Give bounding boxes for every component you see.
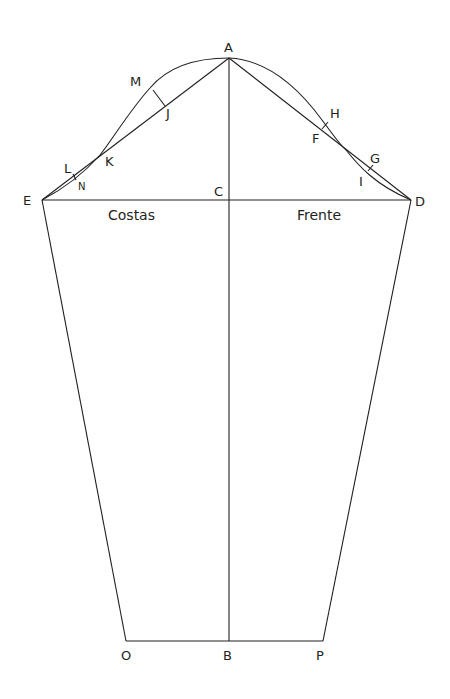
label-point-I: I <box>359 174 363 189</box>
left-side-line-E-O <box>42 200 126 641</box>
label-point-E: E <box>23 193 31 208</box>
label-point-L: L <box>64 161 72 176</box>
label-point-G: G <box>370 151 380 166</box>
label-point-K: K <box>105 154 114 169</box>
tick-M-J <box>153 90 165 106</box>
right-side-line-D-P <box>323 200 411 641</box>
label-point-O: O <box>121 648 131 663</box>
label-point-B: B <box>223 648 232 663</box>
label-point-N: N <box>78 181 85 192</box>
label-point-M: M <box>130 74 141 89</box>
label-front-frente: Frente <box>297 207 341 223</box>
label-point-F: F <box>312 131 319 146</box>
sleeve-diagram: A M J K L N E C H F G I D O B P Costas F… <box>0 0 450 699</box>
front-diagonal-A-D <box>229 58 411 200</box>
label-back-costas: Costas <box>108 207 155 223</box>
label-point-H: H <box>330 106 340 121</box>
label-point-J: J <box>165 106 170 121</box>
label-point-D: D <box>415 194 425 209</box>
label-point-P: P <box>316 648 324 663</box>
label-point-C: C <box>214 184 223 199</box>
label-point-A: A <box>224 40 233 55</box>
tick-H-F <box>322 122 328 129</box>
